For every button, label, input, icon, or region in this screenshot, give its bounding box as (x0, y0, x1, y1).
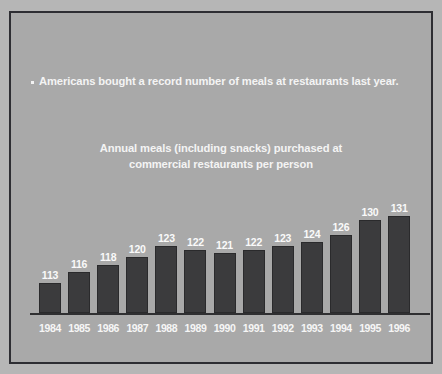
x-axis-label: 1993 (301, 322, 323, 334)
bar-rect (126, 257, 148, 313)
bar-column: 122 (184, 188, 206, 313)
chart-title-line-1: Annual meals (including snacks) purchase… (25, 141, 417, 157)
bar-value-label: 126 (332, 222, 349, 233)
chart-title-line-2: commercial restaurants per person (25, 157, 417, 173)
x-axis-label: 1988 (155, 322, 177, 334)
bar-column: 130 (359, 188, 381, 313)
bar-value-label: 123 (274, 233, 291, 244)
bar-rect (272, 246, 294, 313)
bar-value-label: 118 (100, 252, 116, 263)
bar-column: 113 (39, 188, 61, 313)
x-axis-label: 1991 (243, 322, 265, 334)
bar-column: 123 (272, 188, 294, 313)
bar-rect (184, 250, 206, 313)
bar-value-label: 122 (245, 237, 262, 248)
bullet-line: Americans bought a record number of meal… (31, 74, 417, 89)
bar-value-label: 130 (362, 207, 379, 218)
bar-column: 120 (126, 188, 148, 313)
x-axis-label: 1989 (184, 322, 206, 334)
slide-canvas: Americans bought a record number of meal… (0, 0, 442, 374)
bar-rect (214, 253, 236, 313)
bar-column: 131 (388, 188, 410, 313)
bar-column: 116 (68, 188, 90, 313)
bar-value-label: 120 (129, 244, 146, 255)
x-axis-label: 1985 (68, 322, 90, 334)
bar-rect (39, 283, 61, 313)
bar-rect (97, 265, 119, 313)
bar-value-label: 113 (42, 270, 58, 281)
x-axis-label: 1990 (214, 322, 236, 334)
chart-title: Annual meals (including snacks) purchase… (25, 141, 417, 172)
bar-rect (155, 246, 177, 313)
bar-rect (301, 242, 323, 313)
bar-value-label: 116 (71, 259, 87, 270)
bar-column: 122 (243, 188, 265, 313)
bar-column: 123 (155, 188, 177, 313)
square-bullet-icon (31, 81, 34, 84)
bar-rect (330, 235, 352, 313)
x-axis-label: 1996 (388, 322, 410, 334)
bar-series: 113116118120123122121122123124126130131 (30, 188, 430, 313)
x-axis-label: 1994 (330, 322, 352, 334)
bar-value-label: 131 (391, 203, 408, 214)
bar-column: 118 (97, 188, 119, 313)
bar-column: 124 (301, 188, 323, 313)
bar-value-label: 124 (303, 229, 320, 240)
bar-value-label: 123 (158, 233, 175, 244)
bar-value-label: 122 (187, 237, 204, 248)
x-axis-line (30, 313, 430, 315)
bar-rect (68, 272, 90, 313)
x-axis-labels: 1984198519861987198819891990199119921993… (30, 322, 430, 334)
bar-rect (388, 216, 410, 313)
bar-column: 121 (214, 188, 236, 313)
bullet-text: Americans bought a record number of meal… (39, 74, 399, 89)
bar-value-label: 121 (216, 240, 233, 251)
bar-rect (243, 250, 265, 313)
slide-panel: Americans bought a record number of meal… (9, 11, 433, 364)
x-axis-label: 1986 (97, 322, 119, 334)
x-axis-label: 1992 (272, 322, 294, 334)
bar-column: 126 (330, 188, 352, 313)
x-axis-label: 1995 (359, 322, 381, 334)
bar-rect (359, 220, 381, 313)
x-axis-label: 1987 (126, 322, 148, 334)
x-axis-label: 1984 (39, 322, 61, 334)
bar-chart-plot: 113116118120123122121122123124126130131 (30, 188, 430, 318)
